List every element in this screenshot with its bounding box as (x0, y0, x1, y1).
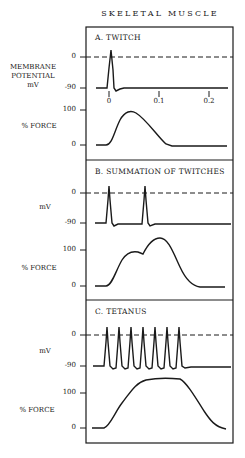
force-label: % FORCE (14, 264, 64, 273)
y-ticks (80, 57, 86, 428)
label-line: MEMBRANE (4, 63, 62, 72)
label-line: POTENTIAL (4, 72, 62, 81)
tetanus-force-curve (92, 378, 226, 429)
tick-minus90mv: -90 (48, 83, 76, 91)
force-label: % FORCE (14, 122, 64, 131)
tick-0-force: 0 (48, 140, 76, 148)
time-tick-0: 0 (99, 97, 119, 105)
tick-100-force: 100 (48, 245, 76, 253)
twitch-force-curve (96, 111, 227, 146)
tick-0mv: 0 (48, 330, 76, 338)
tick-0-force: 0 (48, 281, 76, 289)
time-tick-0-1: 0.1 (149, 97, 169, 105)
tick-0mv: 0 (48, 188, 76, 196)
mv-label: mV (30, 347, 60, 356)
time-tick-0-2: 0.2 (199, 97, 219, 105)
summation-force-curve (95, 238, 225, 287)
force-label: % FORCE (12, 406, 62, 415)
tick-0-force: 0 (48, 423, 76, 431)
tetanus-action-potentials (93, 327, 231, 369)
mv-label: mV (30, 203, 60, 212)
panel-b-title: B. SUMMATION OF TWITCHES (95, 167, 225, 176)
twitch-action-potential (96, 50, 228, 91)
tick-100-force: 100 (48, 105, 76, 113)
tick-0mv: 0 (48, 52, 76, 60)
tick-minus90mv: -90 (48, 361, 76, 369)
panel-c-title: C. TETANUS (95, 307, 147, 316)
tick-100-force: 100 (48, 388, 76, 396)
frame-box (86, 27, 233, 443)
tick-minus90mv: -90 (48, 218, 76, 226)
panel-a-title: A. TWITCH (95, 33, 141, 42)
summation-action-potentials (95, 186, 231, 226)
